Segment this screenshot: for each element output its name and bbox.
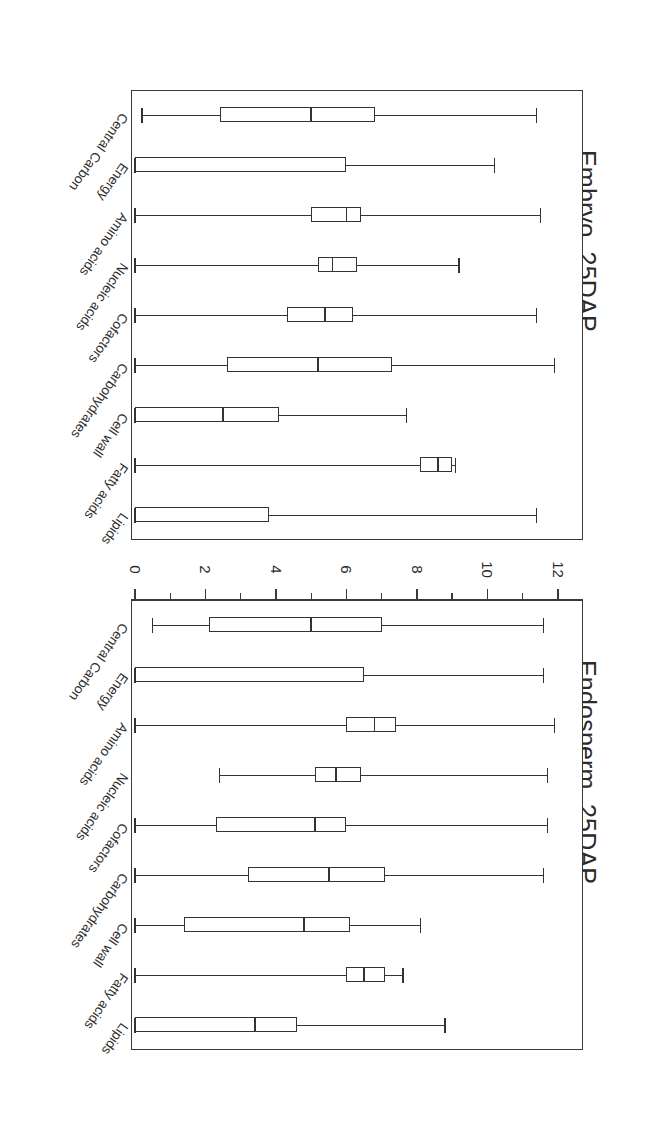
category-label-energy: Energy [94,160,131,204]
whisker-cap-low [134,868,135,883]
axis-tick-minor-5 [311,593,312,600]
whisker-line [220,775,548,776]
boxplot-lipids [131,504,583,526]
panel-endosperm: Endosperm, 25DAP Reaction Expression Sco… [0,570,649,1140]
median-line [310,108,312,123]
whisker-cap-high [543,868,544,883]
whisker-cap-high [406,408,407,423]
axis-tick-minor-7 [381,593,382,600]
boxplot-fatty-acids [131,964,583,986]
whisker-cap-high [420,918,421,933]
box-iqr [315,768,361,783]
whisker-cap-high [402,968,403,983]
boxplot-energy [131,154,583,176]
median-line [335,768,337,783]
box-iqr [135,508,269,523]
whisker-cap-low [134,208,135,223]
axis-tick-major-4 [275,589,276,600]
boxplot-lipids [131,1014,583,1036]
boxplot-carbohydrates [131,864,583,886]
boxplot-central-carbon [131,104,583,126]
whisker-cap-high [547,768,548,783]
box-iqr [227,358,393,373]
whisker-cap-high [554,358,555,373]
panel-endosperm-axis [131,599,583,600]
axis-tick-minor-1 [170,593,171,600]
category-label-lipids: Lipids [99,510,132,548]
axis-line [131,599,583,600]
category-label-lipids: Lipids [99,1020,132,1058]
whisker-cap-high [444,1018,445,1033]
median-line [222,408,224,423]
whisker-cap-low [134,458,135,473]
whisker-cap-low [134,968,135,983]
whisker-cap-high [536,508,537,523]
whisker-cap-low [141,108,142,123]
box-iqr [220,108,375,123]
whisker-cap-low [134,918,135,933]
box-iqr [135,1018,297,1033]
whisker-cap-high [554,718,555,733]
panel-embryo: Embryo, 25DAP Central CarbonEnergyAmino … [0,0,649,570]
box-iqr [248,868,385,883]
whisker-cap-low [134,258,135,273]
boxplot-energy [131,664,583,686]
boxplot-nucleic-acids [131,764,583,786]
median-line [328,868,330,883]
median-line [317,358,319,373]
box-iqr [216,818,346,833]
whisker-cap-high [547,818,548,833]
boxplot-cell-wall [131,914,583,936]
box-iqr [135,408,279,423]
median-line [332,258,334,273]
whisker-cap-high [494,158,495,173]
box-iqr [184,918,350,933]
axis-tick-minor-11 [522,593,523,600]
whisker-cap-low [134,358,135,373]
median-line [325,308,327,323]
boxplot-carbohydrates [131,354,583,376]
axis-tick-major-6 [346,589,347,600]
median-line [346,208,348,223]
whisker-line [135,265,459,266]
boxplot-fatty-acids [131,454,583,476]
box-iqr [311,208,360,223]
whisker-line [135,465,456,466]
boxplot-nucleic-acids [131,254,583,276]
median-line [363,968,365,983]
median-line [437,458,439,473]
median-line [314,818,316,833]
boxplot-cofactors [131,814,583,836]
whisker-line [135,725,554,726]
axis-tick-minor-9 [452,593,453,600]
whisker-cap-high [536,308,537,323]
whisker-cap-low [152,618,153,633]
median-line [374,718,376,733]
figure-canvas: Endosperm, 25DAP Reaction Expression Sco… [0,0,649,1140]
box-iqr [135,668,364,683]
axis-tick-major-10 [487,589,488,600]
whisker-cap-high [459,258,460,273]
box-iqr [346,968,385,983]
median-line [303,918,305,933]
whisker-cap-high [455,458,456,473]
axis-tick-major-0 [134,589,135,600]
box-iqr [287,308,354,323]
boxplot-amino-acids [131,714,583,736]
median-line [254,1018,256,1033]
axis-tick-major-2 [205,589,206,600]
median-line [310,618,312,633]
box-iqr [346,718,395,733]
axis-tick-major-12 [557,589,558,600]
box-iqr [318,258,357,273]
boxplot-cell-wall [131,404,583,426]
whisker-cap-high [543,668,544,683]
boxplot-central-carbon [131,614,583,636]
whisker-cap-high [536,108,537,123]
whisker-cap-high [540,208,541,223]
axis-tick-minor-3 [240,593,241,600]
box-iqr [209,618,382,633]
boxplot-cofactors [131,304,583,326]
whisker-cap-low [134,818,135,833]
whisker-cap-low [219,768,220,783]
